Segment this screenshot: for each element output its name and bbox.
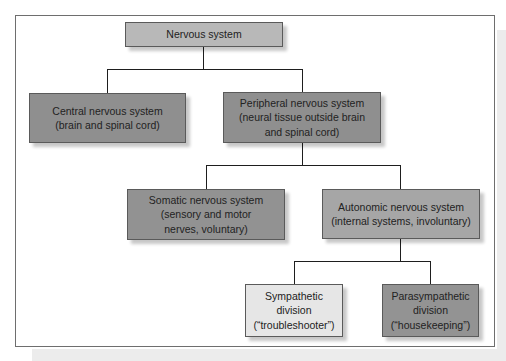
node-peripheral-nervous-system: Peripheral nervous system (neural tissue…: [223, 92, 381, 143]
node-autonomic-nervous-system: Autonomic nervous system (internal syste…: [322, 189, 480, 239]
node-sublabel: division: [276, 303, 311, 318]
connector-peripheral-stem: [302, 143, 303, 166]
node-label: Sympathetic: [265, 289, 323, 304]
connector-to-parasympathetic: [430, 261, 431, 284]
node-label: Autonomic nervous system: [338, 200, 464, 215]
connector-autonomic-stem: [400, 239, 401, 262]
connector-to-autonomic: [400, 165, 401, 189]
node-sympathetic-division: Sympathetic division (“troubleshooter”): [245, 284, 343, 337]
node-central-nervous-system: Central nervous system (brain and spinal…: [29, 93, 186, 143]
node-somatic-nervous-system: Somatic nervous system (sensory and moto…: [127, 189, 285, 240]
node-sublabel: (“troubleshooter”): [253, 318, 334, 333]
frame-shadow-right: [497, 30, 506, 361]
connector-to-somatic: [206, 165, 207, 189]
connector-root-stem: [203, 46, 204, 70]
connector-to-sympathetic: [294, 261, 295, 284]
node-sublabel: and spinal cord): [265, 125, 340, 140]
node-sublabel: nerves, voluntary): [164, 222, 247, 237]
connector-level1-bar: [107, 69, 303, 70]
node-label: Nervous system: [166, 27, 241, 42]
node-label: Peripheral nervous system: [240, 96, 364, 111]
node-label: Somatic nervous system: [149, 193, 263, 208]
node-sublabel: (brain and spinal cord): [55, 118, 159, 133]
node-sublabel: (neural tissue outside brain: [239, 110, 365, 125]
node-sublabel: (internal systems, involuntary): [331, 214, 470, 229]
node-label: Parasympathetic: [391, 289, 469, 304]
node-parasympathetic-division: Parasympathetic division (“housekeeping”…: [382, 284, 479, 337]
connector-level2-bar: [206, 165, 401, 166]
connector-level3-bar: [294, 261, 431, 262]
connector-to-peripheral: [302, 69, 303, 92]
node-sublabel: (sensory and motor: [161, 207, 251, 222]
node-sublabel: (“housekeeping”): [391, 318, 470, 333]
node-nervous-system: Nervous system: [125, 22, 283, 47]
node-sublabel: division: [413, 303, 448, 318]
connector-to-central: [107, 69, 108, 93]
node-label: Central nervous system: [52, 104, 162, 119]
frame-shadow-bottom: [32, 349, 506, 361]
